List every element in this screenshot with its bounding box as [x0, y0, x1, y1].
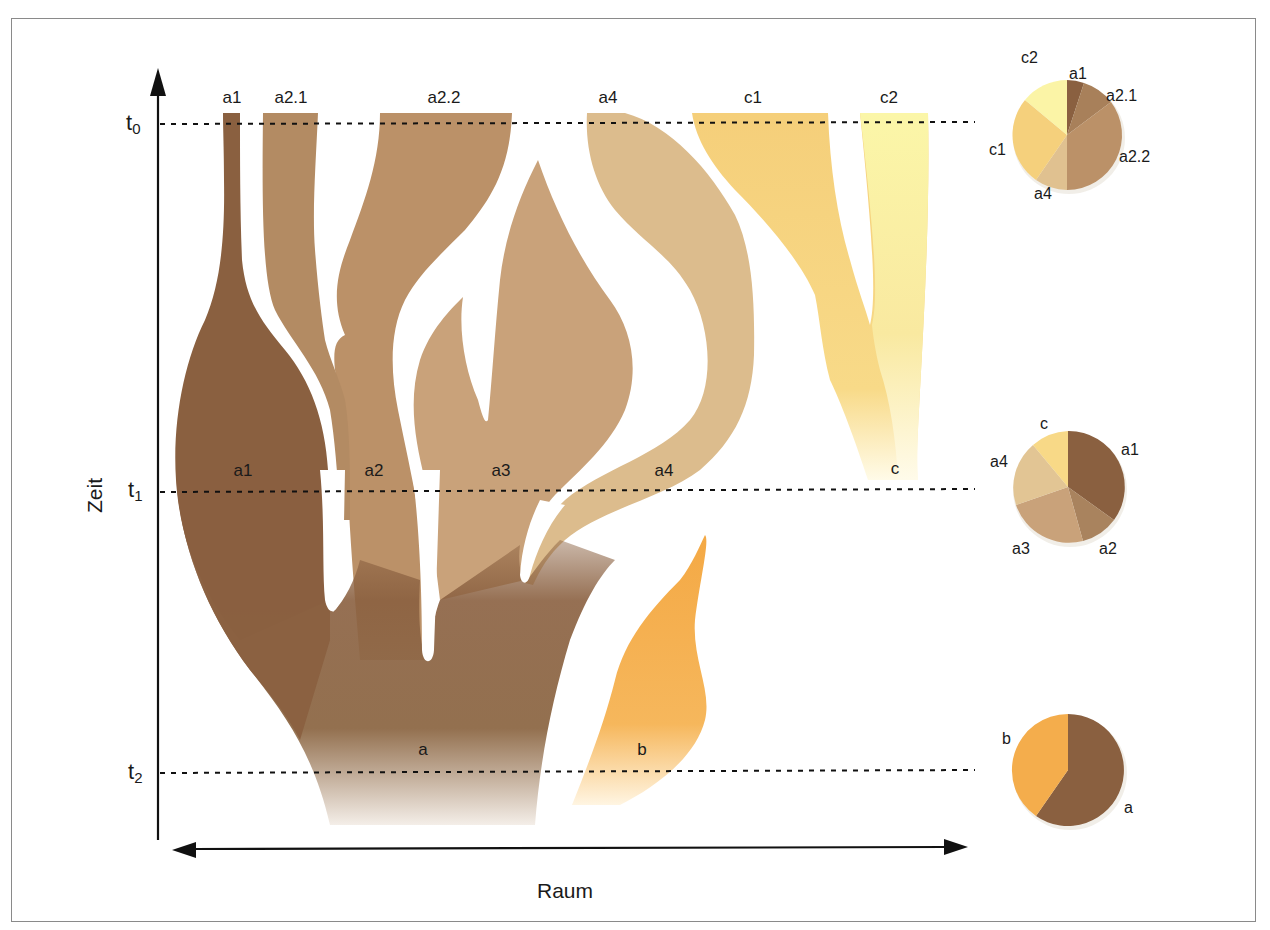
- stream-a1-lower: [176, 470, 330, 740]
- space-axis: [195, 847, 945, 849]
- tick-t1: t1: [128, 479, 142, 503]
- stream-diagram: [0, 0, 1270, 930]
- label-a2-t1: a2: [365, 462, 384, 479]
- label-a1-t0: a1: [223, 89, 242, 106]
- label-a1-t1: a1: [234, 462, 253, 479]
- pie-t1-label-a2: a2: [1099, 541, 1117, 557]
- pie-t0-label-c1: c1: [989, 142, 1006, 158]
- label-b-t2: b: [637, 741, 646, 758]
- pie-t0-label-a4: a4: [1034, 186, 1052, 202]
- tick-t2: t2: [128, 761, 142, 785]
- label-c2-t0: c2: [880, 89, 898, 106]
- label-a3-t1: a3: [492, 462, 511, 479]
- label-a4-t0: a4: [599, 89, 618, 106]
- pie-t0-label-a1: a1: [1069, 66, 1087, 82]
- space-axis-left-arrow-icon: [172, 842, 196, 858]
- y-axis-title: Zeit: [84, 478, 105, 513]
- label-a4-t1: a4: [655, 462, 674, 479]
- pie-t0-label-a2-1: a2.1: [1106, 88, 1137, 104]
- x-axis-title: Raum: [537, 880, 593, 901]
- pie-t1-label-a4: a4: [990, 454, 1008, 470]
- label-c1-t0: c1: [744, 89, 762, 106]
- pie-t2-label-a: a: [1124, 800, 1133, 816]
- label-a2-1-t0: a2.1: [274, 89, 307, 106]
- space-axis-right-arrow-icon: [944, 839, 968, 855]
- pie-t1-label-a1: a1: [1121, 442, 1139, 458]
- label-c-t1: c: [891, 460, 900, 477]
- tick-t0: t0: [126, 112, 140, 136]
- label-a2-2-t0: a2.2: [427, 89, 460, 106]
- pie-t1-label-a3: a3: [1012, 541, 1030, 557]
- pie-t2-label-b: b: [1002, 731, 1011, 747]
- time-axis-arrow-icon: [150, 68, 166, 96]
- pie-t0-label-a2-2: a2.2: [1119, 149, 1150, 165]
- time-line-t2: [160, 770, 975, 773]
- pie-chart-t2: [1012, 714, 1127, 830]
- label-a-t2: a: [418, 741, 427, 758]
- pie-t1-label-c: c: [1040, 416, 1048, 432]
- pie-t0-label-c2: c2: [1021, 50, 1038, 66]
- pie-chart-t1: [1013, 431, 1127, 547]
